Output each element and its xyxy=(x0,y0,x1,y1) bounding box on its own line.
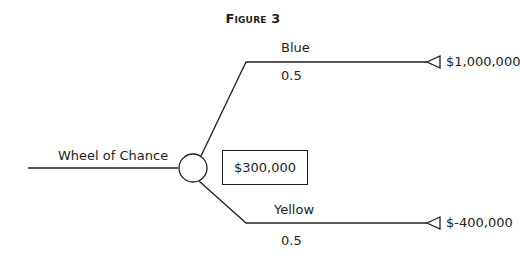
payoff-yellow: $-400,000 xyxy=(446,215,513,230)
payoff-blue: $1,000,000 xyxy=(446,54,520,69)
terminal-triangle-icon xyxy=(427,56,440,68)
branch-probability-yellow: 0.5 xyxy=(281,233,302,248)
expected-value-box: $300,000 xyxy=(222,150,308,185)
branch-label-blue: Blue xyxy=(281,40,310,55)
branch-label-yellow: Yellow xyxy=(274,202,314,217)
blue-branch-line xyxy=(201,62,427,156)
expected-value: $300,000 xyxy=(234,160,296,175)
branch-probability-blue: 0.5 xyxy=(281,68,302,83)
root-label: Wheel of Chance xyxy=(58,148,168,163)
chance-node-icon xyxy=(179,154,207,182)
terminal-triangle-icon xyxy=(427,217,440,229)
